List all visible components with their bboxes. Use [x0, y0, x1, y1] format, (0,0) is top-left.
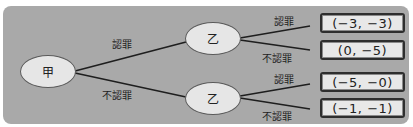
root-node-label: 甲 [42, 63, 54, 80]
root-node: 甲 [20, 55, 76, 88]
payoff-text: (−5, −0) [332, 75, 393, 90]
child-node-upper-label: 乙 [207, 30, 219, 47]
payoff-box-1: (−3, −3) [320, 13, 405, 33]
payoff-box-2: (0, −5) [320, 40, 405, 60]
upper-branch-label-deny: 不認罪 [262, 50, 292, 65]
payoff-text: (−3, −3) [332, 16, 393, 31]
child-node-lower-label: 乙 [207, 90, 219, 107]
payoff-text: (−1, −1) [332, 101, 393, 116]
child-node-upper: 乙 [185, 22, 241, 55]
lower-branch-label-deny: 不認罪 [262, 108, 292, 123]
lower-branch-label-confess: 認罪 [274, 71, 294, 86]
child-node-lower: 乙 [185, 82, 241, 115]
root-branch-label-deny: 不認罪 [102, 87, 132, 102]
payoff-text: (0, −5) [338, 43, 387, 58]
edge-upper-deny [240, 40, 310, 50]
root-branch-label-confess: 認罪 [112, 36, 132, 51]
upper-branch-label-confess: 認罪 [274, 13, 294, 28]
payoff-box-4: (−1, −1) [320, 98, 405, 118]
payoff-box-3: (−5, −0) [320, 72, 405, 92]
